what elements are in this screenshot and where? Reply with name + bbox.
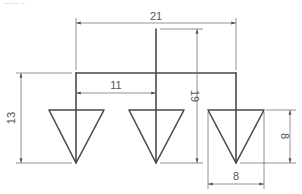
dim-text-8-height: 8 xyxy=(279,133,291,139)
technical-drawing: ~~~ ~ 21 11 13 19 xyxy=(0,0,302,194)
dim-text-21: 21 xyxy=(150,10,162,22)
dimension-height-left: 13 xyxy=(5,73,72,163)
dimension-triangle-height: 8 xyxy=(240,110,296,163)
dim-text-13: 13 xyxy=(5,112,17,124)
dim-text-19: 19 xyxy=(189,90,201,102)
header-label: ~~~ ~ xyxy=(4,0,25,8)
dim-text-8-width: 8 xyxy=(233,170,239,182)
dim-text-11: 11 xyxy=(110,79,121,91)
object-outline xyxy=(49,29,264,163)
dimension-spacing: 11 xyxy=(76,79,156,93)
